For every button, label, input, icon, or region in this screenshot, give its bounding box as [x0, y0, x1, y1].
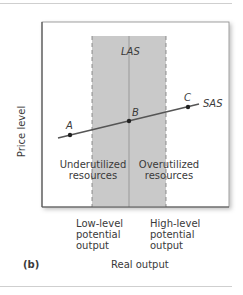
point-b-label: B	[132, 107, 139, 118]
low-level-line1: Low-level	[76, 218, 123, 229]
low-level-potential-label: Low-level potential output	[76, 218, 123, 251]
y-axis-label: Price level	[16, 102, 27, 162]
point-a	[68, 133, 72, 137]
sas-label: SAS	[203, 98, 223, 109]
panel-label: (b)	[23, 259, 39, 270]
x-axis-label: Real output	[111, 259, 169, 270]
low-level-line3: output	[76, 240, 123, 251]
overutilized-line1: Overutilized	[134, 159, 204, 170]
low-level-line2: potential	[76, 229, 123, 240]
high-level-line2: potential	[150, 229, 200, 240]
high-level-line3: output	[150, 240, 200, 251]
high-level-line1: High-level	[150, 218, 200, 229]
overutilized-line2: resources	[134, 170, 204, 181]
point-b	[127, 119, 131, 123]
point-c	[186, 105, 190, 109]
underutilized-line2: resources	[58, 170, 128, 181]
las-label: LAS	[121, 46, 140, 57]
point-a-label: A	[66, 120, 73, 131]
underutilized-label: Underutilized resources	[58, 159, 128, 181]
point-c-label: C	[184, 92, 191, 103]
underutilized-line1: Underutilized	[58, 159, 128, 170]
high-level-potential-label: High-level potential output	[150, 218, 200, 251]
overutilized-label: Overutilized resources	[134, 159, 204, 181]
